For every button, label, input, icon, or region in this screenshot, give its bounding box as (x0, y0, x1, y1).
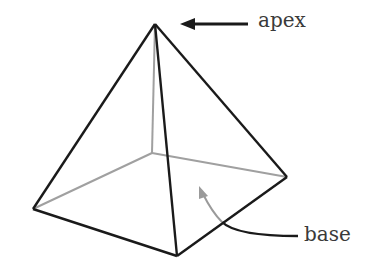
apex-label: apex (258, 10, 306, 30)
edge-apex-front (155, 24, 177, 256)
base-label: base (304, 224, 351, 244)
hidden-edges (33, 24, 287, 209)
edge-apex-right (155, 24, 287, 177)
visible-edges (33, 24, 287, 256)
apex-arrow-icon (180, 18, 248, 30)
hidden-edge-apex-back (152, 24, 155, 153)
edge-left-front (33, 209, 177, 256)
edge-front-right (177, 177, 287, 256)
hidden-edge-back-right (152, 153, 287, 177)
